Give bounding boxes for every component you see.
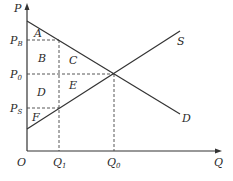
region-c: C <box>69 54 78 67</box>
y-axis-arrow-icon <box>25 3 30 10</box>
price-label-p0: P0 <box>9 68 22 82</box>
region-e: E <box>68 79 77 92</box>
quantity-label-q0: Q0 <box>107 156 121 170</box>
region-d: D <box>36 86 46 99</box>
price-label-pb: PB <box>9 34 23 48</box>
region-b: B <box>37 52 46 65</box>
tax-wedge-diagram: P Q O PB P0 PS Q1 Q0 S D A B C D E F <box>0 0 233 181</box>
y-axis-label: P <box>13 2 22 15</box>
supply-label: S <box>177 35 185 48</box>
price-label-ps: PS <box>9 102 22 116</box>
origin-label: O <box>17 156 26 169</box>
x-axis-arrow-icon <box>215 149 222 154</box>
region-f: F <box>31 111 40 124</box>
x-axis-label: Q <box>214 156 223 169</box>
supply-curve <box>27 31 180 129</box>
demand-label: D <box>181 112 191 125</box>
region-a: A <box>33 27 42 40</box>
quantity-label-q1: Q1 <box>53 156 67 170</box>
demand-curve <box>27 21 180 114</box>
